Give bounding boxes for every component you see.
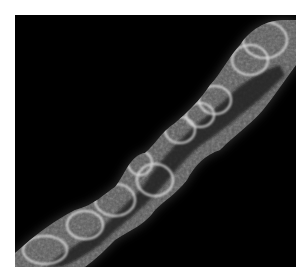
microscopy-image [15,15,296,267]
cell-structure-graphic [15,15,296,267]
